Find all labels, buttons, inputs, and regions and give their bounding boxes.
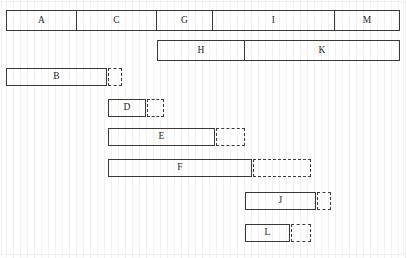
task-label: H xyxy=(197,46,204,56)
task-bar-e[interactable]: E xyxy=(108,128,215,146)
task-segment-h[interactable]: H xyxy=(157,40,245,61)
task-segment-i[interactable]: I xyxy=(213,10,335,31)
task-segment-k[interactable]: K xyxy=(245,40,400,61)
slack-bar-j xyxy=(317,192,331,210)
task-label: J xyxy=(279,196,283,206)
task-label: C xyxy=(113,16,120,26)
task-bar-b[interactable]: B xyxy=(6,68,107,86)
task-bar-l[interactable]: L xyxy=(245,224,290,242)
task-label: B xyxy=(53,72,60,82)
task-bar-row-1[interactable]: ACGIM xyxy=(6,10,400,31)
task-segment-c[interactable]: C xyxy=(77,10,157,31)
task-label: F xyxy=(177,163,182,173)
task-label: I xyxy=(272,16,275,26)
slack-bar-f xyxy=(253,159,311,177)
task-segment-a[interactable]: A xyxy=(6,10,77,31)
task-segment-m[interactable]: M xyxy=(335,10,400,31)
task-label: A xyxy=(38,16,45,26)
task-label: G xyxy=(181,16,188,26)
task-bar-row-2[interactable]: HK xyxy=(157,40,400,61)
slack-bar-e xyxy=(216,128,245,146)
slack-bar-d xyxy=(147,99,164,117)
slack-bar-b xyxy=(108,68,122,86)
task-label: L xyxy=(264,228,270,238)
task-bar-d[interactable]: D xyxy=(108,99,146,117)
gantt-chart: ACGIM HK BDEFJL xyxy=(0,0,407,258)
task-label: E xyxy=(158,132,164,142)
task-bar-j[interactable]: J xyxy=(245,192,316,210)
task-bar-f[interactable]: F xyxy=(108,159,252,177)
task-label: M xyxy=(363,16,372,26)
slack-bar-l xyxy=(291,224,311,242)
task-segment-g[interactable]: G xyxy=(157,10,213,31)
task-label: K xyxy=(318,46,325,56)
task-label: D xyxy=(123,103,130,113)
